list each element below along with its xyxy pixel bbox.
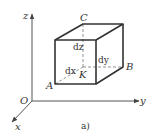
point-b-label: B (125, 61, 133, 72)
origin-label: O (20, 95, 28, 106)
right-face-edges (96, 24, 123, 84)
z-axis-label: z (22, 10, 29, 21)
dz-label: dz (73, 42, 84, 52)
point-c-label: C (80, 12, 88, 23)
dx-label: dx (65, 66, 76, 76)
point-a-label: A (45, 80, 53, 91)
dy-label: dy (98, 55, 110, 65)
top-face-edges (55, 24, 123, 40)
x-axis-label: x (15, 121, 21, 132)
figure-caption: a) (81, 121, 90, 131)
volume-element-diagram: z y x O C B A K dz dy dx a) (0, 0, 165, 140)
point-k-label: K (78, 69, 87, 80)
y-axis-label: y (139, 95, 146, 106)
